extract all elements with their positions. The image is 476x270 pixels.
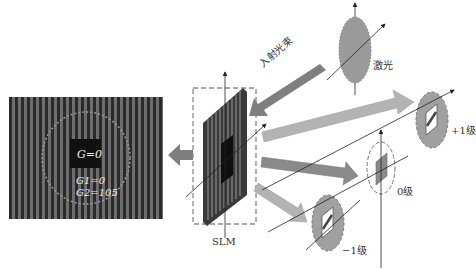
arrow-to-panel: [168, 144, 193, 166]
incident-beam-arrow: [249, 64, 326, 116]
laser-label: 激光: [373, 61, 393, 71]
order-minus1: [312, 195, 344, 251]
order-minus1-label: −1级: [342, 246, 367, 256]
order-plus1-label: +1级: [451, 126, 476, 136]
g2-label: G2=105: [76, 188, 118, 198]
arrow-minus1: [254, 183, 307, 222]
slm-label: SLM: [212, 237, 236, 247]
arrow-zero: [261, 157, 358, 185]
laser-source: [327, 3, 385, 95]
g1-label: G1=0: [76, 176, 105, 186]
center-label: G=0: [77, 149, 102, 160]
arrow-plus1: [262, 90, 414, 142]
order-plus1: [416, 0, 448, 148]
order-zero-label: 0级: [397, 187, 413, 197]
